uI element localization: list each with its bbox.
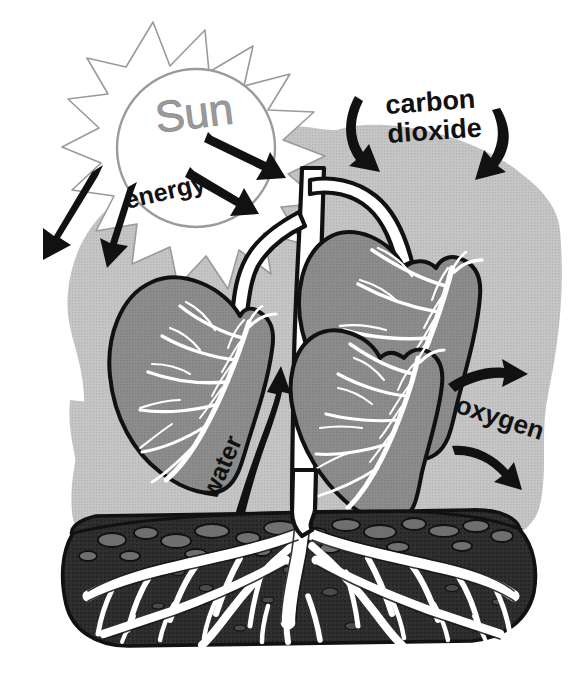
diagram-canvas: Sun energy <box>0 0 577 683</box>
photosynthesis-diagram: Sun energy <box>0 0 577 683</box>
carbon-dioxide-label-line2: dioxide <box>386 112 482 149</box>
main-stem-base <box>292 470 316 536</box>
sun-label: Sun <box>152 84 236 142</box>
stem-over-soil <box>292 470 316 536</box>
